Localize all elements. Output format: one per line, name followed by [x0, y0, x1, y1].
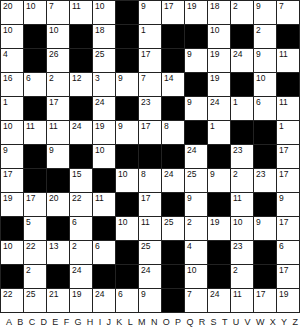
letter-cell[interactable]: 9	[116, 73, 139, 97]
letter-cell[interactable]: 22	[70, 193, 93, 217]
letter-cell[interactable]: 23	[254, 169, 277, 193]
letter-cell[interactable]: 19	[1, 193, 24, 217]
letter-cell[interactable]: 11	[231, 193, 254, 217]
letter-cell[interactable]: 9	[116, 121, 139, 145]
letter-cell[interactable]: 11	[277, 97, 300, 121]
letter-cell[interactable]: 17	[139, 193, 162, 217]
letter-cell[interactable]: 10	[231, 217, 254, 241]
letter-cell[interactable]: 25	[185, 169, 208, 193]
letter-cell[interactable]: 10	[208, 25, 231, 49]
letter-cell[interactable]: 17	[277, 217, 300, 241]
letter-cell[interactable]: 20	[47, 193, 70, 217]
letter-cell[interactable]: 26	[47, 49, 70, 73]
letter-cell[interactable]: 24	[231, 49, 254, 73]
letter-cell[interactable]: 19	[208, 73, 231, 97]
letter-cell[interactable]: 10	[185, 265, 208, 289]
letter-cell[interactable]: 14	[162, 73, 185, 97]
letter-cell[interactable]: 9	[277, 193, 300, 217]
letter-cell[interactable]: 10	[116, 169, 139, 193]
letter-cell[interactable]: 7	[47, 1, 70, 25]
letter-cell[interactable]: 15	[70, 169, 93, 193]
letter-cell[interactable]: 2	[231, 265, 254, 289]
letter-cell[interactable]: 4	[185, 241, 208, 265]
letter-cell[interactable]: 9	[254, 217, 277, 241]
letter-cell[interactable]: 17	[277, 145, 300, 169]
letter-cell[interactable]: 9	[208, 169, 231, 193]
letter-cell[interactable]: 7	[185, 289, 208, 313]
letter-cell[interactable]: 24	[185, 145, 208, 169]
letter-cell[interactable]: 7	[139, 73, 162, 97]
letter-cell[interactable]: 21	[47, 289, 70, 313]
letter-cell[interactable]: 23	[231, 241, 254, 265]
letter-cell[interactable]: 2	[70, 241, 93, 265]
letter-cell[interactable]: 11	[231, 289, 254, 313]
letter-cell[interactable]: 24	[93, 289, 116, 313]
letter-cell[interactable]: 6	[254, 97, 277, 121]
letter-cell[interactable]: 6	[70, 217, 93, 241]
letter-cell[interactable]: 11	[47, 121, 70, 145]
letter-cell[interactable]: 7	[277, 1, 300, 25]
letter-cell[interactable]: 10	[116, 217, 139, 241]
letter-cell[interactable]: 6	[277, 241, 300, 265]
letter-cell[interactable]: 24	[70, 121, 93, 145]
letter-cell[interactable]: 13	[47, 241, 70, 265]
letter-cell[interactable]: 10	[47, 25, 70, 49]
letter-cell[interactable]: 10	[1, 25, 24, 49]
letter-cell[interactable]: 24	[208, 289, 231, 313]
letter-cell[interactable]: 23	[139, 97, 162, 121]
letter-cell[interactable]: 24	[208, 97, 231, 121]
letter-cell[interactable]: 25	[139, 241, 162, 265]
letter-cell[interactable]: 6	[93, 241, 116, 265]
letter-cell[interactable]: 1	[1, 97, 24, 121]
letter-cell[interactable]: 2	[24, 265, 47, 289]
letter-cell[interactable]: 11	[24, 121, 47, 145]
letter-cell[interactable]: 17	[139, 121, 162, 145]
letter-cell[interactable]: 17	[139, 49, 162, 73]
letter-cell[interactable]: 5	[24, 217, 47, 241]
letter-cell[interactable]: 24	[93, 97, 116, 121]
letter-cell[interactable]: 17	[1, 169, 24, 193]
letter-cell[interactable]: 25	[24, 289, 47, 313]
letter-cell[interactable]: 18	[93, 25, 116, 49]
letter-cell[interactable]: 3	[93, 73, 116, 97]
letter-cell[interactable]: 23	[231, 145, 254, 169]
letter-cell[interactable]: 9	[47, 145, 70, 169]
letter-cell[interactable]: 17	[254, 289, 277, 313]
letter-cell[interactable]: 11	[277, 49, 300, 73]
letter-cell[interactable]: 9	[254, 49, 277, 73]
letter-cell[interactable]: 24	[162, 169, 185, 193]
letter-cell[interactable]: 19	[93, 121, 116, 145]
letter-cell[interactable]: 2	[231, 169, 254, 193]
letter-cell[interactable]: 10	[1, 241, 24, 265]
letter-cell[interactable]: 17	[162, 1, 185, 25]
letter-cell[interactable]: 22	[24, 241, 47, 265]
letter-cell[interactable]: 25	[162, 217, 185, 241]
letter-cell[interactable]: 6	[24, 73, 47, 97]
letter-cell[interactable]: 11	[139, 217, 162, 241]
letter-cell[interactable]: 11	[93, 193, 116, 217]
letter-cell[interactable]: 17	[47, 97, 70, 121]
letter-cell[interactable]: 18	[208, 1, 231, 25]
letter-cell[interactable]: 24	[70, 265, 93, 289]
letter-cell[interactable]: 9	[1, 145, 24, 169]
letter-cell[interactable]: 8	[139, 169, 162, 193]
letter-cell[interactable]: 19	[70, 289, 93, 313]
letter-cell[interactable]: 1	[231, 97, 254, 121]
letter-cell[interactable]: 9	[185, 49, 208, 73]
letter-cell[interactable]: 19	[208, 217, 231, 241]
letter-cell[interactable]: 12	[70, 73, 93, 97]
letter-cell[interactable]: 8	[162, 121, 185, 145]
letter-cell[interactable]: 25	[93, 49, 116, 73]
letter-cell[interactable]: 17	[277, 265, 300, 289]
letter-cell[interactable]: 22	[1, 289, 24, 313]
letter-cell[interactable]: 10	[93, 1, 116, 25]
letter-cell[interactable]: 9	[139, 289, 162, 313]
letter-cell[interactable]: 2	[254, 25, 277, 49]
letter-cell[interactable]: 1	[208, 121, 231, 145]
letter-cell[interactable]: 2	[47, 73, 70, 97]
letter-cell[interactable]: 19	[277, 289, 300, 313]
letter-cell[interactable]: 17	[24, 193, 47, 217]
letter-cell[interactable]: 6	[116, 289, 139, 313]
letter-cell[interactable]: 4	[1, 49, 24, 73]
letter-cell[interactable]: 9	[254, 1, 277, 25]
